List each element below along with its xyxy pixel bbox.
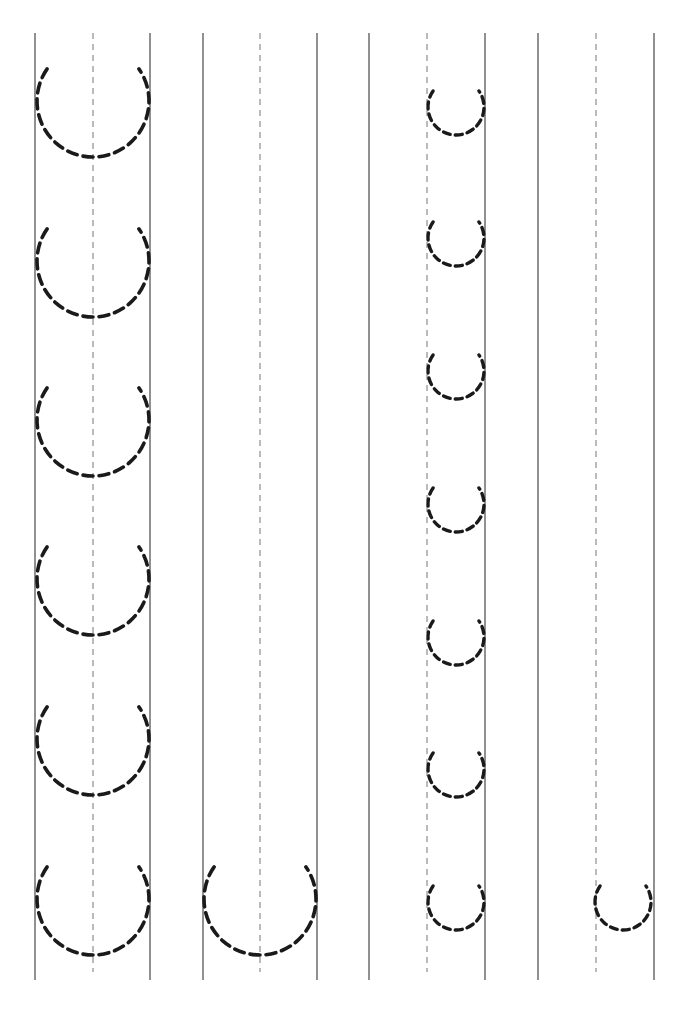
small-u-trace-letter (428, 753, 484, 797)
large-u-tracing-shapes (37, 69, 316, 955)
small-u-trace-letter (428, 621, 484, 665)
solid-ruling-lines (35, 33, 654, 980)
handwriting-practice-sheet (0, 0, 691, 1032)
small-u-trace-letter (428, 886, 484, 930)
small-u-trace-letter (428, 355, 484, 399)
small-u-tracing-shapes (428, 91, 651, 930)
small-u-trace-letter (428, 91, 484, 135)
small-u-trace-letter (595, 886, 651, 930)
small-u-trace-letter (428, 488, 484, 532)
dashed-midline-guides (93, 33, 596, 972)
small-u-trace-letter (428, 222, 484, 266)
